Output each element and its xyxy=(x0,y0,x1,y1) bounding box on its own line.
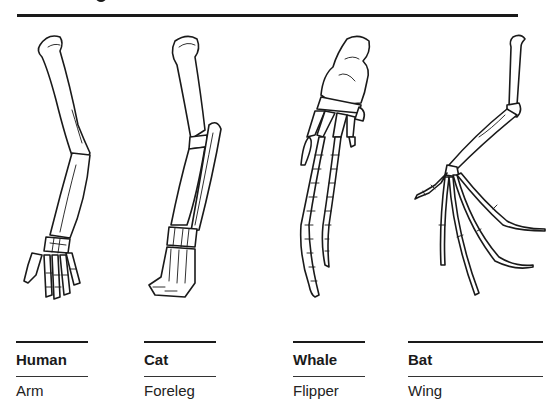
limb-name: Arm xyxy=(16,382,88,400)
human-arm-skeleton xyxy=(10,25,130,310)
animal-name: Bat xyxy=(408,351,543,369)
label-column-whale: Whale Flipper xyxy=(293,341,365,400)
column-rule xyxy=(408,341,543,343)
column-rule xyxy=(16,341,88,343)
label-column-human: Human Arm xyxy=(16,341,88,400)
limb-name: Wing xyxy=(408,382,543,400)
whale-flipper-skeleton xyxy=(275,25,400,310)
label-column-cat: Cat Foreleg xyxy=(144,341,216,400)
animal-name: Human xyxy=(16,351,88,369)
column-divider xyxy=(293,376,365,377)
label-column-bat: Bat Wing xyxy=(408,341,543,400)
column-rule xyxy=(144,341,216,343)
limb-name: Foreleg xyxy=(144,382,216,400)
limb-name: Flipper xyxy=(293,382,365,400)
column-divider xyxy=(16,376,88,377)
bat-wing-skeleton xyxy=(395,25,553,310)
header-rule xyxy=(17,14,518,17)
cat-foreleg-skeleton xyxy=(135,25,255,310)
column-divider xyxy=(144,376,216,377)
title-fragment xyxy=(96,0,106,2)
animal-name: Whale xyxy=(293,351,365,369)
animal-name: Cat xyxy=(144,351,216,369)
column-divider xyxy=(408,376,543,377)
column-rule xyxy=(293,341,365,343)
